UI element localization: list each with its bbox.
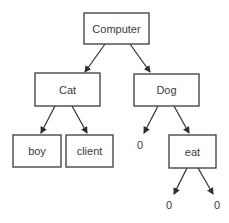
edge-eat-null-right [198, 168, 213, 194]
node-dog-label: Dog [156, 84, 176, 96]
edge-computer-cat [85, 44, 105, 72]
node-eat: eat [169, 135, 216, 168]
leaf-dog-null: 0 [137, 139, 143, 151]
node-dog: Dog [134, 74, 199, 106]
edge-eat-null-left [174, 168, 187, 194]
node-client: client [66, 135, 113, 167]
edge-dog-eat [174, 106, 189, 133]
node-computer: Computer [84, 13, 149, 44]
edge-cat-client [72, 106, 87, 133]
node-client-label: client [77, 145, 103, 157]
edge-cat-boy [41, 106, 55, 133]
node-cat: Cat [35, 73, 100, 106]
tree-diagram: Computer Cat Dog boy client eat 0 0 0 [0, 0, 229, 223]
node-cat-label: Cat [59, 84, 76, 96]
node-computer-label: Computer [92, 23, 141, 35]
edge-computer-dog [130, 44, 150, 72]
leaf-eat-null-left: 0 [166, 199, 172, 211]
leaf-eat-null-right: 0 [214, 199, 220, 211]
edge-dog-null [144, 106, 158, 133]
node-eat-label: eat [185, 146, 200, 158]
node-boy-label: boy [28, 145, 46, 157]
node-boy: boy [13, 135, 61, 167]
